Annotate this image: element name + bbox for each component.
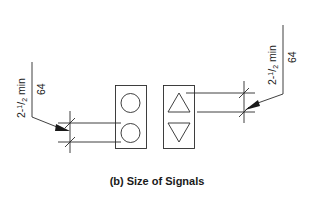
arrow-signal-fixture (164, 86, 195, 149)
left-dimension: 2-1/2 min 64 (15, 62, 121, 153)
dimension-label-metric: 64 (35, 83, 47, 95)
right-dimension: 2-1/2 min 64 (186, 25, 298, 123)
dimension-label-metric: 64 (286, 51, 298, 63)
circle-signal-box (116, 86, 147, 149)
figure-caption: (b) Size of Signals (110, 175, 205, 187)
size-of-signals-diagram: 2-1/2 min 64 2-1/2 min 64 (b) Size of Si… (0, 0, 315, 204)
arrow-signal-box (164, 86, 195, 149)
up-triangle-icon (168, 93, 190, 112)
lower-circle-icon (121, 124, 140, 143)
circle-signal-fixture (116, 86, 147, 149)
upper-circle-icon (121, 94, 140, 113)
dimension-label-imperial: 2-1/2 min (15, 78, 28, 118)
arrowhead-icon (245, 100, 260, 110)
down-triangle-icon (168, 123, 190, 142)
dimension-label-imperial: 2-1/2 min (266, 45, 279, 85)
